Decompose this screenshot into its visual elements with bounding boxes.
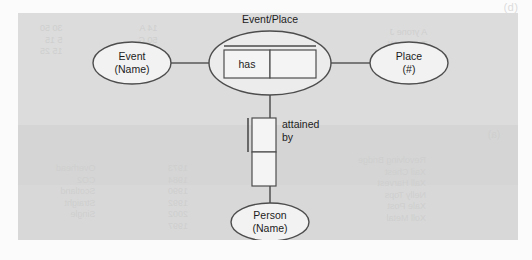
event-place-title: Event/Place <box>242 13 298 25</box>
attained-by-cell-bottom[interactable] <box>252 152 276 186</box>
er-diagram: Event (Name) Place (#) has Even <box>18 13 518 240</box>
attained-by-label-line1: attained <box>282 118 320 130</box>
attained-by-cell-top[interactable] <box>252 118 276 152</box>
entity-place[interactable]: Place (#) <box>370 42 448 84</box>
attained-by-label-line2: by <box>282 131 294 143</box>
entity-event-label-line2: (Name) <box>114 63 149 75</box>
entity-person[interactable]: Person (Name) <box>231 203 309 240</box>
objectified-fact-event-place[interactable]: has <box>209 31 331 95</box>
entity-event[interactable]: Event (Name) <box>93 42 171 84</box>
figure-screenshot: (b) 30 50 5 15 15 25 14 A 50 G 20 B A yr… <box>0 0 532 260</box>
entity-event-label-line1: Event <box>119 50 146 62</box>
predicate-cell-has-label: has <box>239 58 256 70</box>
entity-place-label-line1: Place <box>396 50 422 62</box>
entity-person-label-line1: Person <box>253 209 286 221</box>
predicate-attained-by[interactable]: attained by <box>248 118 320 186</box>
entity-place-label-line2: (#) <box>403 63 416 75</box>
figure-panel: 30 50 5 15 15 25 14 A 50 G 20 B A yrone … <box>18 13 518 240</box>
predicate-cell-empty[interactable] <box>270 50 316 78</box>
page-corner-marker-bleed: (b) <box>503 1 518 13</box>
entity-person-label-line2: (Name) <box>252 222 287 234</box>
